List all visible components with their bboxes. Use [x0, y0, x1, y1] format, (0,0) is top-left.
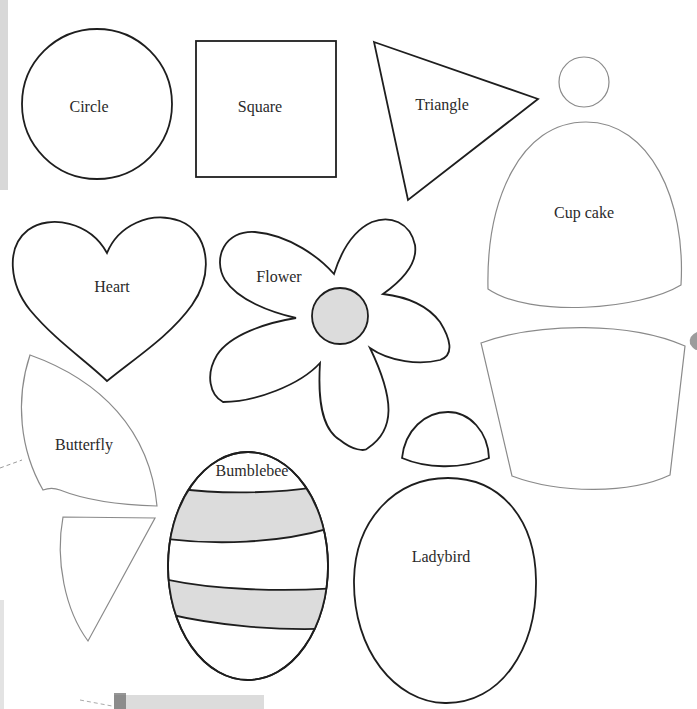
- heart-template: Heart: [13, 217, 206, 381]
- cupcake-top-template: Cup cake: [488, 122, 682, 307]
- cupcake-cherry-template: [559, 57, 609, 107]
- page-smudge: [80, 693, 264, 709]
- cupcake-label: Cup cake: [554, 204, 614, 222]
- ladybird-head-template: [402, 412, 489, 466]
- flower-label: Flower: [256, 268, 302, 285]
- butterfly-label: Butterfly: [55, 436, 113, 454]
- flower-template: Flower: [210, 219, 449, 450]
- ladybird-body-template: Ladybird: [354, 478, 536, 703]
- triangle-label: Triangle: [415, 96, 469, 114]
- bumblebee-template: Bumblebee: [160, 452, 340, 680]
- bumblebee-label: Bumblebee: [216, 462, 289, 479]
- square-label: Square: [238, 98, 282, 116]
- butterfly-upper-wing-template: Butterfly: [21, 355, 157, 506]
- ladybird-label: Ladybird: [412, 548, 471, 566]
- butterfly-lower-wing-template: [60, 517, 155, 641]
- template-sheet: Circle Square Triangle Cup cake Heart Fl…: [0, 0, 697, 709]
- cupcake-base-template: [481, 328, 685, 490]
- square-template: Square: [196, 41, 336, 177]
- circle-label: Circle: [69, 98, 108, 115]
- heart-label: Heart: [94, 278, 130, 295]
- page-binding-edge: [0, 0, 22, 709]
- circle-template: Circle: [22, 29, 172, 179]
- page-edge-pin: [690, 332, 697, 350]
